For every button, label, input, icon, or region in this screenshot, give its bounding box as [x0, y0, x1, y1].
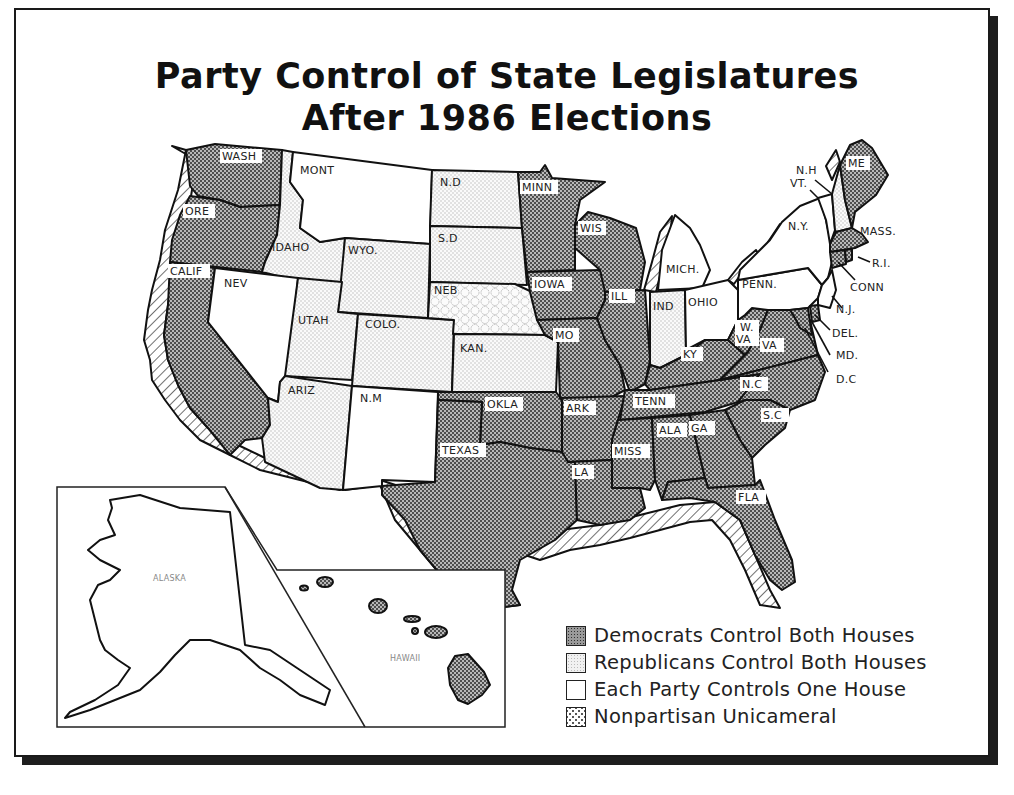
label-wash: WASH — [222, 150, 256, 163]
label-md: MD. — [836, 349, 858, 362]
blank-swatch-icon — [566, 680, 586, 700]
label-conn: CONN — [850, 281, 884, 294]
state-ri[interactable] — [845, 249, 852, 262]
label-ohio: OHIO — [688, 296, 718, 309]
legend-item-split: Each Party Controls One House — [566, 676, 976, 703]
label-ore: ORE — [185, 205, 209, 218]
label-la: LA — [574, 466, 589, 479]
label-mass: MASS. — [860, 225, 896, 238]
label-dc: D.C — [836, 373, 857, 386]
label-alaska: ALASKA — [153, 574, 186, 583]
label-minn: MINN — [522, 181, 552, 194]
legend-label: Republicans Control Both Houses — [594, 651, 927, 674]
label-kan: KAN. — [460, 342, 487, 355]
label-idaho: IDAHO — [272, 241, 310, 254]
label-wis: WIS — [580, 222, 602, 235]
label-iowa: IOWA — [534, 278, 565, 291]
label-sd: S.D — [438, 232, 458, 245]
label-neb: NEB — [434, 284, 458, 297]
legend-label: Democrats Control Both Houses — [594, 624, 915, 647]
legend-item-dem: Democrats Control Both Houses — [566, 622, 976, 649]
label-del: DEL. — [832, 327, 858, 340]
label-miss: MISS — [614, 445, 642, 458]
label-nm: N.M — [360, 392, 382, 405]
label-penn: PENN. — [742, 278, 777, 291]
label-ala: ALA — [659, 424, 682, 437]
label-wva-2: VA — [736, 333, 751, 346]
state-nm[interactable] — [343, 386, 438, 490]
label-utah: UTAH — [298, 314, 329, 327]
legend-label: Each Party Controls One House — [594, 678, 906, 701]
label-fla: FLA — [738, 491, 759, 504]
label-nj: N.J. — [836, 303, 856, 316]
label-ind: IND — [653, 300, 674, 313]
label-ill: ILL — [611, 290, 628, 303]
label-mont: MONT — [300, 164, 334, 177]
label-nd: N.D — [440, 176, 461, 189]
dense-dot-swatch-icon — [566, 626, 586, 646]
label-tenn: TENN — [634, 395, 666, 408]
label-calif: CALIF — [170, 265, 202, 278]
label-okla: OKLA — [487, 398, 518, 411]
legend-label: Nonpartisan Unicameral — [594, 705, 837, 728]
label-hawaii: HAWAII — [390, 654, 421, 663]
label-me: ME — [848, 157, 865, 170]
label-ariz: ARIZ — [288, 384, 315, 397]
hex-circle-swatch-icon — [566, 707, 586, 727]
label-mich: MICH. — [666, 263, 700, 276]
label-vt: VT. — [790, 177, 807, 190]
label-ga: GA — [691, 422, 708, 435]
state-ny[interactable] — [738, 198, 832, 285]
label-va: VA — [762, 339, 777, 352]
label-colo: COLO. — [365, 318, 400, 331]
label-sc: S.C — [763, 409, 782, 422]
legend-item-rep: Republicans Control Both Houses — [566, 649, 976, 676]
label-mo: MO — [555, 329, 574, 342]
label-nh: N.H — [796, 164, 817, 177]
light-dot-swatch-icon — [566, 653, 586, 673]
label-ri: R.I. — [872, 257, 891, 270]
label-ky: KY — [683, 348, 697, 361]
legend: Democrats Control Both Houses Republican… — [566, 622, 976, 730]
label-nev: NEV — [224, 277, 248, 290]
label-texas: TEXAS — [441, 444, 479, 457]
legend-item-nonpartisan: Nonpartisan Unicameral — [566, 703, 976, 730]
label-nc: N.C — [742, 378, 762, 391]
label-ny: N.Y. — [788, 220, 809, 233]
label-ark: ARK — [566, 402, 590, 415]
label-wyo: WYO. — [348, 244, 378, 257]
state-conn[interactable] — [830, 250, 846, 268]
